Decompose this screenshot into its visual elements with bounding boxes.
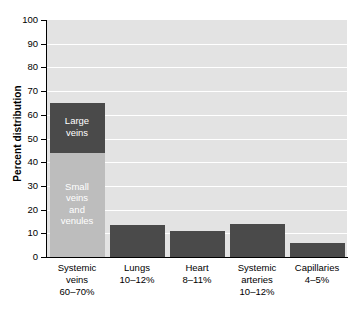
y-tick-mark-40 (41, 162, 47, 163)
x-axis-label-systemic-veins: Systemicveins60–70% (47, 262, 107, 297)
x-axis-label-systemic-arteries: Systemicarteries10–12% (227, 262, 287, 297)
y-tick-label-100: 100 (0, 15, 38, 25)
bar-segment-label-large-veins: Largeveins (50, 115, 105, 138)
bar-systemic-veins[interactable]: LargeveinsSmallveinsandvenules (50, 103, 105, 257)
bar-segment-label-small-veins-and-venules: Smallveinsandvenules (50, 181, 105, 227)
y-tick-label-40: 40 (0, 157, 38, 167)
x-axis-line (46, 257, 348, 258)
y-tick-label-70: 70 (0, 86, 38, 96)
bar-capillaries[interactable] (290, 243, 345, 257)
y-tick-mark-30 (41, 186, 47, 187)
y-tick-mark-10 (41, 233, 47, 234)
x-axis-label-capillaries: Capillaries4–5% (287, 262, 347, 286)
plot-area: LargeveinsSmallveinsandvenules (47, 20, 347, 257)
y-tick-mark-100 (41, 20, 47, 21)
bar-lungs[interactable] (110, 225, 165, 257)
gridline-80 (47, 67, 347, 68)
bar-segment-capillaries-bar[interactable] (290, 243, 345, 257)
bar-segment-large-veins[interactable]: Largeveins (50, 103, 105, 153)
y-tick-mark-0 (41, 257, 47, 258)
gridline-70 (47, 91, 347, 92)
x-axis-label-lungs: Lungs10–12% (107, 262, 167, 286)
bar-chart: Percent distribution LargeveinsSmallvein… (0, 0, 354, 311)
y-tick-label-50: 50 (0, 134, 38, 144)
y-tick-mark-20 (41, 210, 47, 211)
y-tick-label-0: 0 (0, 252, 38, 262)
y-tick-label-30: 30 (0, 181, 38, 191)
bar-segment-heart-bar[interactable] (170, 231, 225, 257)
y-tick-label-10: 10 (0, 228, 38, 238)
y-tick-mark-70 (41, 91, 47, 92)
x-axis-label-heart: Heart8–11% (167, 262, 227, 286)
y-tick-label-60: 60 (0, 110, 38, 120)
bar-segment-small-veins-and-venules[interactable]: Smallveinsandvenules (50, 153, 105, 257)
y-tick-mark-90 (41, 44, 47, 45)
bar-segment-systemic-arteries-bar[interactable] (230, 224, 285, 257)
bar-heart[interactable] (170, 231, 225, 257)
y-tick-mark-80 (41, 67, 47, 68)
y-tick-label-20: 20 (0, 205, 38, 215)
y-tick-label-80: 80 (0, 62, 38, 72)
y-tick-label-90: 90 (0, 39, 38, 49)
y-tick-mark-60 (41, 115, 47, 116)
y-tick-mark-50 (41, 139, 47, 140)
bar-segment-lungs-bar[interactable] (110, 225, 165, 257)
bar-systemic-arteries[interactable] (230, 224, 285, 257)
gridline-90 (47, 44, 347, 45)
